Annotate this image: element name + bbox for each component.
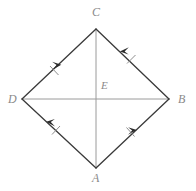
vertex-label-e: E xyxy=(101,79,108,91)
diagram-canvas xyxy=(0,0,196,191)
tick-group xyxy=(50,55,136,137)
diagonal-group xyxy=(22,29,169,168)
arrowhead-group xyxy=(46,47,137,135)
geometry-diagram: C B A D E xyxy=(0,0,196,191)
vertex-label-a: A xyxy=(92,172,99,184)
edge-DC xyxy=(22,29,96,99)
edge-AD xyxy=(22,99,96,168)
vertex-label-c: C xyxy=(92,6,100,18)
vertex-label-d: D xyxy=(8,93,17,105)
vertex-label-b: B xyxy=(178,93,185,105)
